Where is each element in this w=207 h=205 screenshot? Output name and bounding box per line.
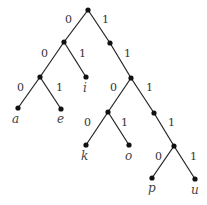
node-11	[128, 75, 133, 80]
leaf-label-a: a	[12, 112, 19, 126]
tree-nodes	[15, 7, 197, 181]
node-e	[58, 106, 63, 111]
edge-label: 1	[124, 47, 131, 60]
leaf-label-o: o	[125, 149, 132, 163]
node-u	[192, 176, 197, 181]
edge-label: 0	[84, 116, 91, 129]
edge-label: 1	[56, 81, 63, 94]
leaf-label-i: i	[83, 81, 87, 95]
node-root	[85, 7, 90, 12]
node-110	[105, 109, 110, 114]
leaf-label-e: e	[57, 112, 64, 126]
code-tree-diagram: 0 1 0 1 1 0 1 0 1 0 1 1 0 1 a e i k o p …	[0, 0, 207, 205]
edge-label: 1	[102, 13, 109, 26]
node-0	[61, 39, 66, 44]
node-111	[151, 110, 156, 115]
edge-label: 0	[41, 47, 48, 60]
leaf-label-u: u	[191, 183, 199, 197]
node-1	[107, 40, 112, 45]
node-1111	[171, 143, 176, 148]
edge-label: 1	[146, 81, 153, 94]
tree-edges	[18, 10, 195, 179]
node-p	[149, 175, 154, 180]
edge-label: 1	[168, 116, 175, 129]
edge-label: 0	[110, 81, 117, 94]
edge-label: 0	[155, 150, 162, 163]
edge-label: 0	[65, 13, 72, 26]
edge-label: 1	[190, 150, 197, 163]
leaf-label-k: k	[81, 149, 88, 163]
leaf-labels: a e i k o p u	[12, 81, 199, 197]
leaf-label-p: p	[148, 181, 156, 195]
edge-label: 0	[17, 81, 24, 94]
edge-label: 1	[121, 116, 128, 129]
node-k	[83, 142, 88, 147]
node-00	[37, 74, 42, 79]
node-a	[15, 105, 20, 110]
node-i	[83, 74, 88, 79]
node-o	[126, 142, 131, 147]
edge-label: 1	[79, 47, 86, 60]
